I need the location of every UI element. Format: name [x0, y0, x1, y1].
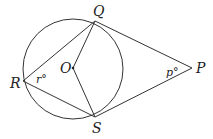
geometry-diagram: Q O R S P r° p° — [0, 0, 213, 139]
label-r: R — [9, 75, 21, 91]
angle-r-label: r° — [36, 73, 47, 86]
chord-rs — [23, 81, 95, 117]
center-point — [72, 67, 75, 70]
radius-oq — [73, 21, 95, 68]
label-s: S — [92, 120, 102, 136]
label-q: Q — [93, 3, 105, 19]
tangent-qp — [95, 21, 192, 68]
radius-os — [73, 68, 95, 117]
angle-p-label: p° — [166, 66, 179, 79]
label-p: P — [195, 60, 206, 76]
label-o: O — [60, 60, 72, 76]
chord-rq — [23, 21, 95, 81]
